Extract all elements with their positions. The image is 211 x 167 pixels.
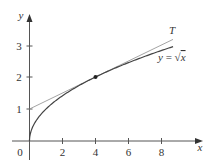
origin-label: 0: [17, 146, 23, 158]
x-tick-label: 2: [60, 146, 66, 158]
y-tick-label: 2: [16, 71, 22, 83]
tangent-label: T: [169, 24, 176, 36]
curve-label-x: x: [180, 51, 186, 63]
y-axis-label: y: [18, 9, 24, 21]
y-tick-label: 3: [16, 40, 22, 52]
y-axis-arrow-icon: [27, 14, 33, 22]
x-axis-label: x: [197, 141, 203, 153]
chart: 0 2 4 6 8 1 2 3 x y T y = √x: [0, 0, 211, 167]
tangent-point: [94, 75, 98, 79]
x-tick-label: 6: [126, 146, 132, 158]
curve-label-eq: =: [163, 51, 175, 63]
y-tick-label: 1: [16, 103, 22, 115]
curve-label: y = √x: [157, 51, 186, 63]
x-tick-label: 8: [159, 146, 165, 158]
sqrt-curve-line: [30, 47, 174, 141]
x-tick-label: 4: [93, 146, 99, 158]
